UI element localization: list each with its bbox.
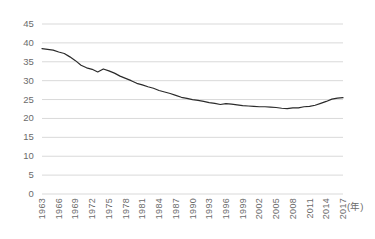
x-axis-tick-label: 2008 — [288, 198, 298, 219]
y-axis-tick-label: 20 — [8, 112, 34, 123]
engel-coefficient-line-chart: エンゲル係数 (%) 454035302520151050 1963196619… — [0, 0, 375, 239]
y-axis-tick-label: 0 — [8, 188, 34, 199]
x-axis-tick-label: 2014 — [321, 198, 331, 219]
x-axis-tick-label: 1969 — [70, 198, 80, 219]
y-axis-tick-label: 10 — [8, 150, 34, 161]
x-axis-tick-label: 1981 — [137, 198, 147, 219]
x-axis-tick-label: 2005 — [271, 198, 281, 219]
x-axis-tick-label: 1978 — [121, 198, 131, 219]
x-axis-tick-label: 1996 — [221, 198, 231, 219]
x-axis-tick-label: 1987 — [171, 198, 181, 219]
x-axis-tick-label: 1963 — [37, 198, 47, 219]
x-axis-tick-label: 1999 — [238, 198, 248, 219]
y-axis-tick-label: 40 — [8, 37, 34, 48]
x-axis-title: (年) — [347, 199, 363, 213]
gridlines — [42, 24, 343, 194]
x-axis-tick-label: 1984 — [154, 198, 164, 219]
y-axis-tick-label: 45 — [8, 18, 34, 29]
y-axis-tick-label: 25 — [8, 94, 34, 105]
y-axis-tick-label: 35 — [8, 56, 34, 67]
y-axis-tick-label: 30 — [8, 75, 34, 86]
x-axis-tick-label: 2011 — [305, 198, 315, 219]
x-axis-tick-label: 1975 — [104, 198, 114, 219]
x-axis-tick-label: 1993 — [204, 198, 214, 219]
x-axis-tick-label: 1990 — [188, 198, 198, 219]
x-axis-tick-label: 1972 — [87, 198, 97, 219]
x-axis-tick-label: 1966 — [54, 198, 64, 219]
x-axis-tick-label: 2002 — [254, 198, 264, 219]
y-axis-tick-label: 5 — [8, 169, 34, 180]
y-axis-tick-label: 15 — [8, 131, 34, 142]
